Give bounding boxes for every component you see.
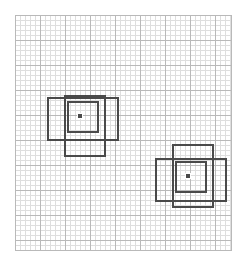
screenshot-canvas (0, 0, 248, 266)
center-marker (185, 173, 191, 179)
square-cluster-2 (0, 0, 248, 266)
shape-layer (0, 0, 248, 266)
square-outline-inner-square (175, 161, 207, 193)
